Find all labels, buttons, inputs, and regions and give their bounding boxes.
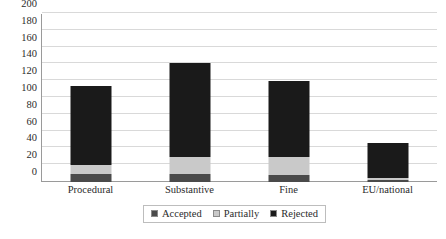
bar-segment-partially bbox=[169, 157, 210, 174]
bar-segment-accepted bbox=[70, 174, 111, 182]
x-axis-label: Fine bbox=[239, 184, 338, 195]
stacked-bar bbox=[367, 143, 408, 182]
x-axis-category-labels: ProceduralSubstantiveFineEU/national bbox=[41, 184, 437, 200]
bar-segment-partially bbox=[268, 157, 309, 175]
legend-item: Partially bbox=[213, 208, 260, 219]
y-axis-tick-label: 120 bbox=[3, 66, 37, 76]
legend-item: Accepted bbox=[151, 208, 202, 219]
gridline bbox=[42, 12, 437, 13]
bar-segment-rejected bbox=[169, 63, 210, 157]
bar-group bbox=[338, 14, 437, 182]
bar-segment-accepted bbox=[169, 174, 210, 182]
bar-group bbox=[140, 14, 239, 182]
bar-group bbox=[239, 14, 338, 182]
legend-label: Partially bbox=[224, 208, 260, 219]
y-axis-tick-label: 40 bbox=[3, 133, 37, 143]
y-axis-tick-label: 80 bbox=[3, 100, 37, 110]
x-axis-label: Procedural bbox=[41, 184, 140, 195]
legend-label: Accepted bbox=[162, 208, 202, 219]
legend-label: Rejected bbox=[281, 208, 318, 219]
y-axis: 200180160140120100806040200 bbox=[0, 14, 37, 182]
bar-segment-accepted bbox=[268, 175, 309, 182]
y-axis-tick-label: 140 bbox=[3, 49, 37, 59]
y-axis-tick-label: 20 bbox=[3, 150, 37, 160]
y-axis-tick-label: 180 bbox=[3, 16, 37, 26]
bar-segment-accepted bbox=[367, 180, 408, 182]
chart-legend: AcceptedPartiallyRejected bbox=[143, 205, 326, 223]
bar-segment-rejected bbox=[268, 81, 309, 157]
bar-segment-rejected bbox=[367, 143, 408, 177]
bar-group bbox=[41, 14, 140, 182]
stacked-bar-chart: 200180160140120100806040200 ProceduralSu… bbox=[0, 0, 446, 239]
bar-segment-rejected bbox=[70, 86, 111, 165]
bar-segment-partially bbox=[70, 165, 111, 173]
y-axis-tick-label: 0 bbox=[3, 167, 37, 177]
x-axis-label: EU/national bbox=[338, 184, 437, 195]
y-axis-tick-label: 60 bbox=[3, 117, 37, 127]
y-axis-tick-label: 200 bbox=[3, 0, 37, 9]
stacked-bar bbox=[268, 81, 309, 182]
x-axis-label: Substantive bbox=[140, 184, 239, 195]
stacked-bar bbox=[169, 63, 210, 182]
legend-swatch-icon bbox=[151, 210, 158, 217]
stacked-bar bbox=[70, 86, 111, 182]
legend-swatch-icon bbox=[270, 210, 277, 217]
legend-item: Rejected bbox=[270, 208, 318, 219]
y-axis-tick-label: 100 bbox=[3, 83, 37, 93]
legend-swatch-icon bbox=[213, 210, 220, 217]
y-axis-tick-label: 160 bbox=[3, 33, 37, 43]
bars-layer bbox=[41, 14, 437, 182]
